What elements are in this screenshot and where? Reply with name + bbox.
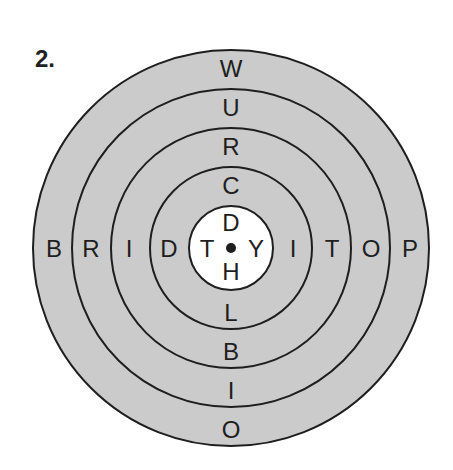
letter-left-2: R bbox=[82, 235, 99, 262]
letter-bottom-4: I bbox=[228, 377, 235, 404]
letter-right-3: T bbox=[325, 235, 340, 262]
letter-left-5: T bbox=[200, 235, 215, 262]
concentric-ring-puzzle: W U R C D H L B I O B R I D T Y I T O P bbox=[0, 0, 453, 470]
letter-bottom-2: L bbox=[224, 299, 237, 326]
letter-bottom-5: O bbox=[222, 416, 241, 443]
letter-left-3: I bbox=[126, 235, 133, 262]
letter-right-4: O bbox=[362, 235, 381, 262]
letter-bottom-1: H bbox=[222, 258, 239, 285]
letter-left-4: D bbox=[160, 235, 177, 262]
letter-left-1: B bbox=[46, 235, 62, 262]
letter-top-1: W bbox=[220, 55, 243, 82]
letter-bottom-3: B bbox=[223, 338, 239, 365]
letter-right-1: Y bbox=[248, 235, 264, 262]
letter-top-4: C bbox=[222, 172, 239, 199]
letter-top-5: D bbox=[222, 209, 239, 236]
letter-top-3: R bbox=[222, 133, 239, 160]
letter-right-5: P bbox=[402, 235, 418, 262]
letter-top-2: U bbox=[222, 94, 239, 121]
letter-right-2: I bbox=[290, 235, 297, 262]
center-dot-icon bbox=[226, 243, 236, 253]
